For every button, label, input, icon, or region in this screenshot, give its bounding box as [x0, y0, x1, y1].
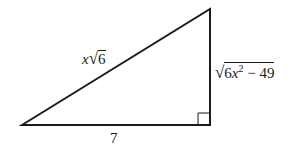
- sqrt-symbol: √: [215, 63, 224, 82]
- hypotenuse-radicand: 6: [98, 50, 106, 67]
- triangle: [22, 9, 210, 125]
- hypotenuse-variable: x: [82, 51, 89, 67]
- coefficient: 6: [224, 65, 232, 81]
- vertical-leg-radicand: 6x2 − 49: [224, 62, 274, 81]
- right-angle-marker: [198, 113, 210, 125]
- hypotenuse-label: x√6: [82, 50, 106, 67]
- base-label: 7: [110, 131, 118, 146]
- variable: x: [232, 65, 239, 81]
- vertical-leg-label: √6x2 − 49: [215, 62, 274, 81]
- sqrt-symbol: √: [89, 49, 98, 68]
- constant-term: − 49: [244, 65, 275, 81]
